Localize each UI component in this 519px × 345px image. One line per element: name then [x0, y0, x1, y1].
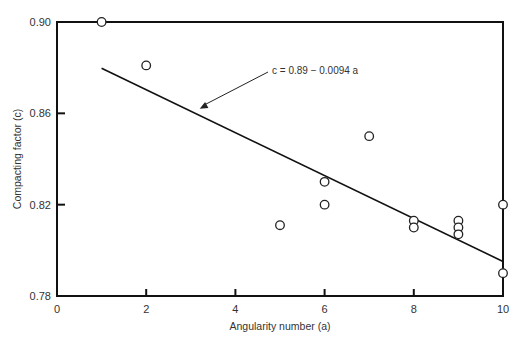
regression-line [102, 68, 503, 261]
data-point [97, 18, 106, 27]
plot-frame [57, 22, 503, 296]
x-tick-label: 6 [322, 303, 328, 315]
x-tick-label: 2 [143, 303, 149, 315]
y-axis-ticks: 0.780.820.860.90 [30, 16, 65, 302]
data-point [410, 223, 419, 232]
annotation-arrow-line [203, 72, 268, 106]
data-point [499, 269, 508, 278]
data-point [320, 178, 329, 187]
x-tick-label: 10 [497, 303, 509, 315]
x-tick-label: 0 [54, 303, 60, 315]
equation-annotation: c = 0.89 − 0.0094 a [200, 65, 359, 109]
data-points [97, 18, 507, 278]
x-axis-title: Angularity number (a) [230, 320, 331, 332]
y-tick-label: 0.78 [30, 290, 51, 302]
y-tick-label: 0.82 [30, 199, 51, 211]
data-point [142, 61, 151, 70]
y-tick-label: 0.86 [30, 107, 51, 119]
y-axis-title: Compacting factor (c) [11, 109, 23, 209]
regression-line-path [102, 68, 503, 261]
x-tick-label: 8 [411, 303, 417, 315]
plot-border [57, 22, 503, 296]
data-point [320, 200, 329, 209]
y-tick-label: 0.90 [30, 16, 51, 28]
scatter-chart: 0246810 0.780.820.860.90 c = 0.89 − 0.00… [0, 0, 519, 345]
x-axis-ticks: 0246810 [54, 289, 509, 315]
data-point [365, 132, 374, 141]
equation-label: c = 0.89 − 0.0094 a [272, 65, 359, 76]
annotation-arrowhead-icon [200, 102, 209, 109]
data-point [276, 221, 285, 230]
data-point [454, 230, 463, 239]
x-tick-label: 4 [232, 303, 238, 315]
data-point [499, 200, 508, 209]
